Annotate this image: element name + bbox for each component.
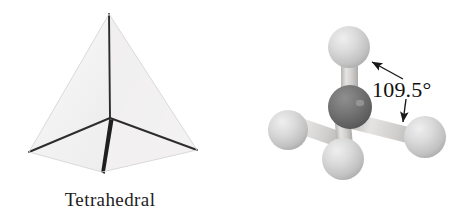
- atom-hydrogen-bottom: [322, 138, 364, 180]
- atom-hydrogen-top: [328, 26, 370, 68]
- atom-carbon-specular-highlight: [356, 100, 364, 106]
- atom-hydrogen-right: [404, 116, 446, 158]
- tetrahedron-group: Tetrahedral: [29, 14, 197, 210]
- bond-angle-label: 109.5°: [372, 77, 432, 102]
- methane-model-group: 109.5°: [268, 26, 446, 180]
- tetrahedral-caption: Tetrahedral: [65, 189, 156, 210]
- arrow-to-right-bond: [403, 99, 406, 122]
- tetrahedron-edge-apex-to-center: [109, 14, 110, 118]
- tetrahedral-geometry-figure: Tetrahedral: [0, 0, 470, 216]
- atom-hydrogen-left: [268, 110, 308, 150]
- figure-root: Tetrahedral: [0, 0, 470, 216]
- atom-carbon-center: [328, 85, 372, 129]
- tetrahedron-face-front-left: [29, 14, 110, 172]
- tetrahedron-face-front-right: [102, 14, 197, 172]
